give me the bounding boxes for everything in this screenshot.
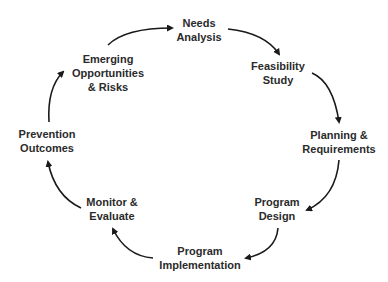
node-program-implementation: Program Implementation — [159, 244, 240, 272]
node-emerging-opportunities-risks: Emerging Opportunities & Risks — [72, 52, 144, 94]
node-label: Study — [251, 73, 305, 87]
node-label: Program — [159, 244, 240, 258]
node-needs-analysis: Needs Analysis — [176, 16, 221, 44]
node-prevention-outcomes: Prevention Outcomes — [19, 127, 76, 155]
node-planning-requirements: Planning & Requirements — [302, 128, 375, 156]
node-monitor-evaluate: Monitor & Evaluate — [86, 195, 137, 223]
node-label: Evaluate — [86, 209, 137, 223]
node-label: Requirements — [302, 142, 375, 156]
arrow-design-to-implementation — [246, 228, 278, 258]
node-label: Program — [254, 195, 299, 209]
node-label: Implementation — [159, 258, 240, 272]
arrow-implementation-to-monitor — [113, 229, 153, 258]
node-feasibility-study: Feasibility Study — [251, 59, 305, 87]
node-label: Feasibility — [251, 59, 305, 73]
node-label: Emerging — [72, 52, 144, 66]
arrow-needs-to-feasibility — [228, 29, 279, 54]
node-label: & Risks — [72, 80, 144, 94]
arrow-feasibility-to-planning — [312, 73, 339, 122]
node-label: Needs — [176, 16, 221, 30]
node-label: Monitor & — [86, 195, 137, 209]
arrow-monitor-to-prevention — [48, 162, 81, 208]
node-label: Design — [254, 209, 299, 223]
arrow-planning-to-design — [307, 160, 339, 210]
arrow-emerging-to-needs — [108, 28, 172, 45]
arrow-prevention-to-emerging — [49, 72, 63, 122]
node-label: Prevention — [19, 127, 76, 141]
node-label: Outcomes — [19, 141, 76, 155]
node-label: Planning & — [302, 128, 375, 142]
node-program-design: Program Design — [254, 195, 299, 223]
node-label: Opportunities — [72, 66, 144, 80]
node-label: Analysis — [176, 30, 221, 44]
